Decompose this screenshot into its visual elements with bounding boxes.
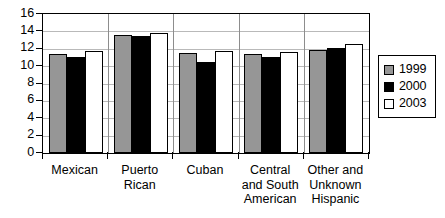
legend-label-1999: 1999	[399, 63, 426, 76]
bar-2003	[215, 51, 233, 154]
bar-2000	[67, 57, 85, 153]
x-tick-mark	[303, 152, 304, 159]
y-tick-label: 12	[0, 41, 34, 54]
y-tick-label: 6	[0, 93, 34, 106]
bar-2000	[262, 57, 280, 153]
x-tick-label-line: Mexican	[42, 163, 107, 178]
x-tick-label-line: American	[238, 192, 303, 207]
bar-2000	[197, 62, 215, 153]
bar-1999	[114, 35, 132, 153]
x-tick-label: Centraland SouthAmerican	[238, 163, 303, 207]
bar-1999	[309, 50, 327, 153]
x-tick-label: PuertoRican	[107, 163, 172, 192]
category-separator	[239, 14, 240, 153]
x-axis-ticks	[42, 152, 370, 160]
y-tick-label: 16	[0, 7, 34, 20]
legend-swatch-2003	[384, 99, 394, 109]
category-separator	[108, 14, 109, 153]
bar-2003	[150, 33, 168, 153]
x-tick-label-line: and South	[238, 178, 303, 193]
x-tick-label-line: Hispanic	[303, 192, 368, 207]
y-tick-label: 10	[0, 59, 34, 72]
y-tick-label: 8	[0, 76, 34, 89]
bar-2000	[327, 48, 345, 153]
x-axis-labels: MexicanPuertoRicanCubanCentraland SouthA…	[42, 163, 370, 215]
bar-group	[179, 14, 233, 153]
bar-1999	[49, 54, 67, 153]
y-tick-label: 2	[0, 128, 34, 141]
bar-group	[49, 14, 103, 153]
x-tick-label-line: Other and	[303, 163, 368, 178]
bar-chart: 0246810121416 MexicanPuertoRicanCubanCen…	[0, 0, 445, 218]
bar-2000	[132, 36, 150, 153]
category-separator	[304, 14, 305, 153]
x-tick-mark	[172, 152, 173, 159]
legend-swatch-1999	[384, 65, 394, 75]
x-tick-label-line: Cuban	[172, 163, 237, 178]
bar-2003	[85, 51, 103, 153]
x-tick-mark	[107, 152, 108, 159]
bar-2003	[280, 52, 298, 153]
x-tick-label: Mexican	[42, 163, 107, 178]
plot-area	[42, 13, 370, 154]
legend-label-2000: 2000	[399, 80, 426, 93]
x-tick-label: Cuban	[172, 163, 237, 178]
bar-2003	[345, 44, 363, 153]
bar-group	[244, 14, 298, 153]
bar-1999	[244, 54, 262, 153]
legend-item-2003: 2003	[384, 95, 430, 112]
legend: 1999 2000 2003	[378, 55, 436, 118]
x-tick-mark	[238, 152, 239, 159]
bar-group	[114, 14, 168, 153]
x-tick-mark	[42, 152, 43, 159]
category-separator	[173, 14, 174, 153]
y-axis-labels: 0246810121416	[0, 0, 34, 218]
bar-group	[309, 14, 363, 153]
legend-item-2000: 2000	[384, 78, 430, 95]
y-tick-label: 0	[0, 146, 34, 159]
x-tick-label: Other andUnknownHispanic	[303, 163, 368, 207]
x-tick-label-line: Unknown	[303, 178, 368, 193]
x-tick-label-line: Puerto	[107, 163, 172, 178]
legend-item-1999: 1999	[384, 61, 430, 78]
legend-label-2003: 2003	[399, 97, 426, 110]
bar-1999	[179, 53, 197, 153]
y-tick-label: 4	[0, 111, 34, 124]
legend-swatch-2000	[384, 82, 394, 92]
x-tick-label-line: Central	[238, 163, 303, 178]
y-tick-label: 14	[0, 24, 34, 37]
x-tick-label-line: Rican	[107, 178, 172, 193]
x-tick-mark	[368, 152, 369, 159]
